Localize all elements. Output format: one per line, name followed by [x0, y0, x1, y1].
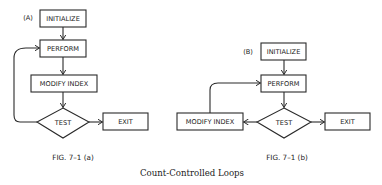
caption: Count-Controlled Loops [140, 168, 244, 178]
node-exit-b: EXIT [325, 113, 370, 130]
svg-text:EXIT: EXIT [340, 118, 356, 126]
node-test-b: TEST [257, 108, 311, 138]
node-initialize-a: INITIALIZE [40, 10, 86, 27]
node-modify-index-a: MODIFY INDEX [31, 75, 97, 92]
svg-text:INITIALIZE: INITIALIZE [46, 15, 80, 23]
figure-label-a: FIG. 7–1 (a) [52, 153, 94, 162]
svg-text:MODIFY INDEX: MODIFY INDEX [186, 118, 235, 126]
svg-text:MODIFY INDEX: MODIFY INDEX [40, 80, 89, 88]
figure-label-b: FIG. 7–1 (b) [266, 153, 308, 162]
node-initialize-b: INITIALIZE [261, 43, 306, 60]
svg-text:INITIALIZE: INITIALIZE [267, 48, 301, 56]
node-exit-a: EXIT [103, 113, 148, 130]
diagram-b-tag: (B) [243, 48, 253, 56]
svg-text:PERFORM: PERFORM [268, 80, 300, 88]
loop-arrow-modify-perform-b [210, 83, 261, 113]
diagram-a: (A) INITIALIZE PERFORM MODIFY INDEX TEST… [14, 10, 148, 162]
node-perform-a: PERFORM [40, 40, 86, 57]
diagram-b: (B) INITIALIZE PERFORM TEST EXIT MODIFY … [177, 43, 370, 162]
svg-text:TEST: TEST [54, 119, 72, 127]
svg-text:EXIT: EXIT [118, 118, 134, 126]
diagram-a-tag: (A) [23, 14, 33, 22]
svg-text:PERFORM: PERFORM [47, 45, 79, 53]
svg-text:TEST: TEST [275, 119, 293, 127]
node-test-a: TEST [37, 108, 89, 138]
node-perform-b: PERFORM [261, 75, 306, 92]
node-modify-index-b: MODIFY INDEX [177, 113, 243, 130]
flowchart-canvas: (A) INITIALIZE PERFORM MODIFY INDEX TEST… [0, 0, 382, 185]
